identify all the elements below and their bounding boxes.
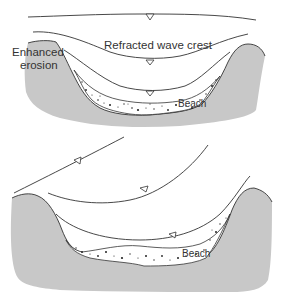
wave-crest-1-bottom <box>14 137 124 193</box>
beach-label-bottom: Beach <box>182 248 210 259</box>
coastal-refraction-diagram: Refracted wave crest Enhanced erosion Be… <box>0 0 286 298</box>
wave-crest-2-bottom <box>48 145 208 203</box>
top-panel: Refracted wave crest Enhanced erosion Be… <box>12 14 265 127</box>
wave-arrow-icon <box>74 157 81 164</box>
wave-crest-1-top <box>28 14 256 20</box>
bottom-panel: Beach <box>11 137 272 292</box>
wave-arrow-icon <box>146 91 154 96</box>
erosion-label-line1: Enhanced <box>12 46 64 58</box>
wave-arrow-icon <box>146 14 154 20</box>
wave-arrow-icon <box>146 60 154 65</box>
wave-crest-label: Refracted wave crest <box>104 39 213 51</box>
beach-label-top: Beach <box>178 98 206 109</box>
wave-arrow-icon <box>140 186 148 192</box>
wave-crest-3-top <box>64 50 230 91</box>
erosion-label-line2: erosion <box>20 59 58 71</box>
